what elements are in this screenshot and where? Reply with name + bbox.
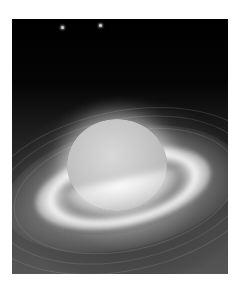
star: [99, 24, 102, 27]
star: [61, 26, 64, 29]
planet-image: [12, 19, 228, 274]
